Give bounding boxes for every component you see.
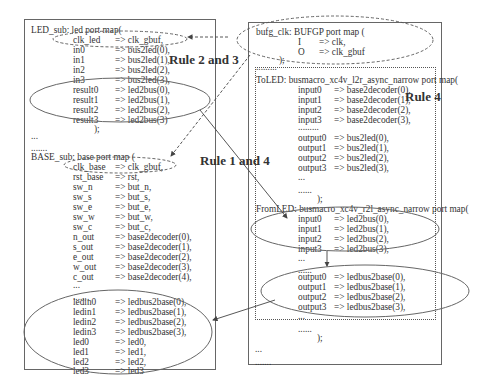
bufg-close: ); — [279, 55, 285, 66]
fromled-sig: => ledbus2base(3), — [334, 302, 405, 313]
ellipsis: ... — [31, 131, 38, 142]
bufg-header: bufg_clk: BUFGP port map ( — [256, 27, 365, 38]
ellipsis: ... — [73, 280, 80, 291]
ellipsis: ....... — [255, 357, 271, 368]
led-sig: => led2bus(3) — [115, 115, 168, 126]
toled-dots: ......... — [256, 62, 277, 73]
rule-4-label: Rule 4 — [405, 89, 441, 105]
ellipsis: ... — [298, 311, 305, 322]
bufg-sig: => clk_gbuf — [319, 47, 365, 58]
ellipsis: ...... — [298, 324, 312, 335]
ellipsis: ... — [298, 172, 305, 183]
toled-sig: => bus2led(3), — [334, 163, 389, 174]
toled-sig: => base2decoder(3), — [334, 115, 411, 126]
led-sub-close: ); — [94, 124, 100, 135]
rule-1-and-4-label: Rule 1 and 4 — [200, 153, 270, 169]
ellipsis: ... — [255, 344, 262, 355]
base-port: led3 — [73, 366, 89, 377]
bufg-port: O — [298, 47, 305, 58]
ellipsis: ... — [298, 253, 305, 264]
rule-2-and-3-label: Rule 2 and 3 — [169, 52, 239, 68]
fromled-close: ); — [317, 333, 323, 344]
base-sig: => led3 — [115, 366, 144, 377]
ellipsis: ......... — [298, 122, 319, 133]
ellipsis: ...... — [298, 185, 312, 196]
base-sig: => base2decoder(4), — [115, 272, 192, 283]
fromled-sig: => led2bus(3), — [334, 244, 389, 255]
